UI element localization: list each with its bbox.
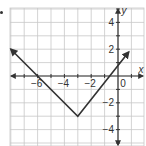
y-tick-label: 4 xyxy=(108,17,114,28)
y-axis-label: y xyxy=(121,5,128,16)
x-tick-label: −2 xyxy=(84,78,96,89)
x-tick-label-0: 0 xyxy=(120,78,126,89)
tick-labels: xy−6−4−2042−2−4 xyxy=(31,5,145,135)
x-tick-label: −4 xyxy=(58,78,70,89)
y-tick-label: 2 xyxy=(108,44,114,55)
grid-border xyxy=(10,8,144,146)
grid-lines xyxy=(10,8,144,146)
y-tick-label: −2 xyxy=(103,97,115,108)
y-tick-label: −4 xyxy=(103,124,115,135)
x-axis-label: x xyxy=(138,64,145,75)
coordinate-plane: xy−6−4−2042−2−4 xyxy=(0,0,146,146)
axes xyxy=(11,9,143,145)
